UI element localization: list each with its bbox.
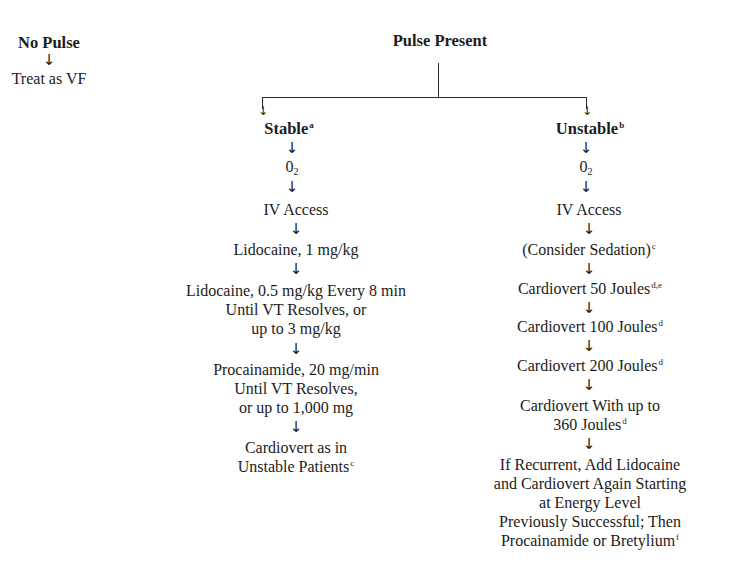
unstable-cardiovert-100-step: Cardiovert 100 Joulesd	[517, 318, 663, 336]
down-arrow-icon: ↓	[290, 262, 303, 277]
down-arrow-icon: ↓	[583, 378, 596, 393]
pulse-present-heading: Pulse Present	[393, 32, 488, 50]
down-arrow-icon: ↓	[583, 262, 596, 277]
down-arrow-icon: ↓	[583, 222, 596, 237]
treat-as-vf-text: Treat as VF	[12, 70, 87, 88]
unstable-iv-access-step: IV Access	[556, 201, 621, 219]
down-arrow-icon: ↓	[290, 420, 303, 435]
unstable-sedation-step: (Consider Sedation)c	[522, 241, 655, 259]
unstable-cardiovert-200-step: Cardiovert 200 Joulesd	[517, 357, 663, 375]
down-arrow-icon: ↓	[286, 180, 299, 195]
unstable-cardiovert-360-step: Cardiovert With up to 360 Joulesd	[520, 396, 660, 434]
stable-o2-step: 02	[286, 158, 299, 176]
down-arrow-icon: ↓	[583, 437, 596, 452]
stable-lidocaine-repeat-step: Lidocaine, 0.5 mg/kg Every 8 min Until V…	[186, 281, 406, 338]
down-arrow-icon: ↓	[583, 301, 596, 316]
down-arrow-icon: ↓	[290, 222, 303, 237]
down-arrow-icon: ↓	[580, 180, 593, 195]
stable-cardiovert-step: Cardiovert as in Unstable Patientsc	[238, 438, 355, 476]
down-arrow-icon: ↓	[580, 141, 593, 156]
unstable-heading: Unstableb	[556, 120, 624, 138]
down-arrow-icon: ↓	[583, 339, 596, 354]
unstable-cardiovert-50-step: Cardiovert 50 Joulesd,e	[518, 280, 662, 298]
branch-line	[262, 97, 587, 98]
down-arrow-icon: ↓	[290, 342, 303, 357]
stable-lidocaine-1-step: Lidocaine, 1 mg/kg	[234, 241, 359, 259]
down-arrow-icon: ↓	[258, 104, 268, 119]
stable-heading: Stablea	[264, 120, 314, 138]
stable-procainamide-step: Procainamide, 20 mg/min Until VT Resolve…	[213, 360, 379, 417]
unstable-recurrent-step: If Recurrent, Add Lidocaine and Cardiove…	[494, 455, 686, 550]
down-arrow-icon: ↓	[286, 141, 299, 156]
stem-line	[438, 63, 439, 98]
no-pulse-heading: No Pulse	[18, 34, 80, 52]
down-arrow-icon: ↓	[43, 53, 56, 68]
stable-iv-access-step: IV Access	[263, 201, 328, 219]
down-arrow-icon: ↓	[582, 104, 592, 119]
unstable-o2-step: 02	[580, 158, 593, 176]
